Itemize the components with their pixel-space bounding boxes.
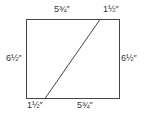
label-bottom-left-length: 1½″ <box>27 101 43 110</box>
label-top-right-length: 1½″ <box>103 5 119 14</box>
label-bottom-right-length: 5¾″ <box>77 101 93 110</box>
label-top-left-length: 5¾″ <box>54 5 70 14</box>
diagonal-cut-line <box>45 20 100 99</box>
label-right-height: 6½″ <box>121 54 137 63</box>
label-left-height: 6½″ <box>6 54 22 63</box>
